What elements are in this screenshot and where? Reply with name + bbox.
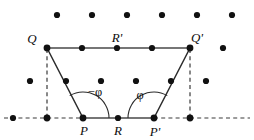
angle-arcs xyxy=(70,92,168,118)
vertex-label-Rprime: R' xyxy=(111,30,123,45)
geometry-figure: Q R' Q' P R P' −φ φ xyxy=(0,0,254,140)
vertex-label-Q: Q xyxy=(27,31,37,46)
lattice-dot xyxy=(133,78,139,84)
lattice-dot xyxy=(54,12,60,18)
lattice-dot xyxy=(79,45,85,51)
angle-label-minus-phi: −φ xyxy=(88,85,102,99)
lattice-dot-Qprime xyxy=(187,45,194,52)
lattice-dot xyxy=(220,45,226,51)
lattice-dot xyxy=(194,12,200,18)
lattice-dot xyxy=(203,78,209,84)
vertex-label-Qprime: Q' xyxy=(191,30,203,45)
vertex-label-P: P xyxy=(79,123,88,138)
vertex-label-Pprime: P' xyxy=(149,124,161,139)
lattice-dot-Rprime xyxy=(114,45,120,51)
lattice-dot xyxy=(98,78,104,84)
lattice-dot xyxy=(124,12,130,18)
lattice-dot-R xyxy=(115,115,121,121)
lattice-dot-Q xyxy=(44,45,51,52)
lattice-row-top xyxy=(54,12,235,18)
lattice-dot xyxy=(44,115,51,122)
lattice-dot xyxy=(149,45,155,51)
lattice-dot xyxy=(10,115,16,121)
lattice-dot-Pprime xyxy=(151,115,158,122)
lattice-dot xyxy=(168,78,174,84)
angle-label-phi: φ xyxy=(136,88,143,102)
diagram-canvas: Q R' Q' P R P' −φ φ xyxy=(0,0,254,140)
lattice-dot-P xyxy=(80,115,87,122)
lattice-dot xyxy=(63,78,69,84)
dashed-guides xyxy=(4,49,250,118)
lattice-dot xyxy=(229,12,235,18)
lattice-dot xyxy=(187,115,194,122)
vertex-label-R: R xyxy=(113,123,122,138)
lattice-dot xyxy=(27,78,33,84)
lattice-row-middle xyxy=(27,78,209,84)
lattice-dot xyxy=(159,12,165,18)
lattice-dot xyxy=(89,12,95,18)
trapezoid-edges xyxy=(47,48,190,118)
